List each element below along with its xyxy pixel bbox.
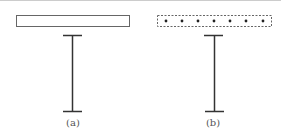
- i-beam-b: [204, 36, 224, 112]
- dot: [229, 20, 232, 23]
- dot: [197, 20, 200, 23]
- panel-b: (b): [158, 16, 272, 129]
- solid-plate: [17, 16, 130, 27]
- dot: [213, 20, 216, 23]
- i-beam-a: [63, 36, 82, 112]
- panel-a: (a): [17, 16, 130, 129]
- panel-a-label: (a): [66, 117, 80, 128]
- diagram-canvas: (a) (b): [0, 0, 281, 139]
- dot: [181, 20, 184, 23]
- dot: [165, 20, 168, 23]
- dot: [262, 20, 265, 23]
- dot: [245, 20, 248, 23]
- panel-b-label: (b): [206, 117, 220, 128]
